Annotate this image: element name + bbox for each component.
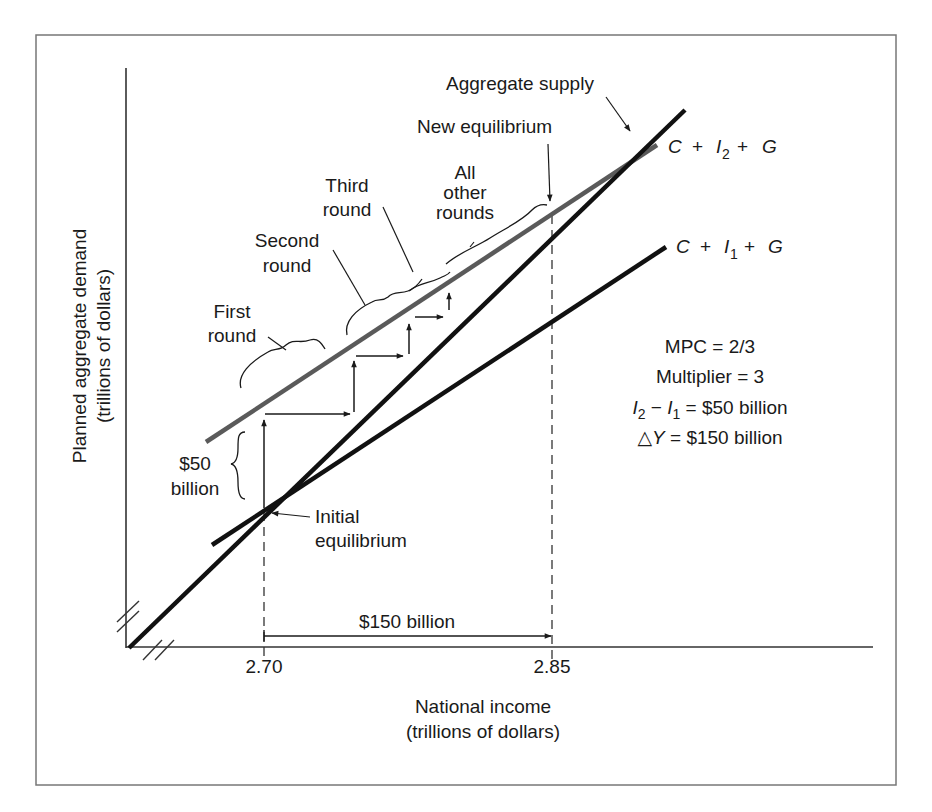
line-c-i2-g [206, 145, 657, 442]
y-axis-title: Planned aggregate demand (trillions of d… [69, 229, 114, 464]
svg-text:2: 2 [722, 146, 730, 162]
label-initial-eq-2: equilibrium [315, 530, 407, 551]
label-third-round-1: Third [325, 175, 368, 196]
label-third-round-2: round [323, 199, 372, 220]
label-new-equilibrium: New equilibrium [417, 116, 552, 137]
info-mpc: MPC = 2/3 [665, 336, 755, 357]
label-all-other-3: rounds [436, 202, 494, 223]
svg-text:+: + [692, 136, 703, 157]
svg-text:+: + [737, 136, 748, 157]
multiplier-chart: 2.70 2.85 $150 billion [0, 0, 932, 812]
line-aggregate-supply [129, 110, 685, 648]
multiplier-rounds-arrows [264, 293, 449, 508]
svg-text:C: C [676, 236, 690, 257]
svg-text:1: 1 [730, 246, 738, 262]
legend-c-i1-g: C + I 1 + G [676, 236, 783, 262]
x-tick-2-85: 2.85 [534, 656, 571, 677]
x-axis-title-1: National income [415, 696, 551, 717]
label-fifty-billion-2: billion [171, 478, 220, 499]
svg-text:G: G [768, 236, 783, 257]
svg-text:Planned aggregate demand: Planned aggregate demand [69, 229, 90, 464]
info-delta-y: △Y = $150 billion [637, 427, 782, 448]
label-second-round-2: round [263, 255, 312, 276]
svg-text:+: + [744, 236, 755, 257]
info-investment-change: I2 − I1 = $50 billion [632, 397, 787, 422]
label-aggregate-supply: Aggregate supply [446, 73, 594, 94]
svg-text:C: C [668, 136, 682, 157]
delta-y-span-label: $150 billion [359, 611, 455, 632]
label-fifty-billion-1: $50 [179, 453, 211, 474]
x-axis-title-2: (trillions of dollars) [406, 721, 560, 742]
label-all-other-1: All [454, 162, 475, 183]
info-multiplier: Multiplier = 3 [656, 366, 764, 387]
svg-text:(trillions of dollars): (trillions of dollars) [93, 269, 114, 423]
label-all-other-2: other [443, 182, 487, 203]
label-initial-eq-1: Initial [315, 506, 359, 527]
x-tick-2-70: 2.70 [246, 656, 283, 677]
svg-text:+: + [700, 236, 711, 257]
legend-c-i2-g: C + I 2 + G [668, 136, 777, 162]
label-second-round-1: Second [255, 230, 319, 251]
label-first-round-2: round [208, 325, 257, 346]
label-first-round-1: First [214, 301, 252, 322]
svg-text:G: G [762, 136, 777, 157]
info-box: MPC = 2/3 Multiplier = 3 I2 − I1 = $50 b… [632, 336, 787, 448]
